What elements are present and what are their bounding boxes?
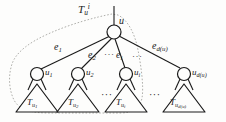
label-edge-edu: ed(u) [152,41,168,51]
label-enclosure-Tui: Tui [78,4,90,15]
child-to-subtree-line-du [175,79,180,90]
ellipsis-subtrees-left: ··· [101,90,113,100]
child-to-subtree-line-2b [82,79,87,90]
label-subtree-Tudu: Tud(u) [170,98,186,107]
edge-line-e1 [41,36,110,69]
child-to-subtree-line-i [117,79,122,90]
node-circle-ui [120,68,133,81]
label-node-u2: u2 [86,68,94,77]
label-node-u1: u1 [45,68,53,77]
ellipsis-subtrees-right: ··· [149,90,161,100]
ellipsis-edges-left: ··· [104,50,115,59]
label-node-udu: ud(u) [192,68,207,77]
label-node-ui: ui [134,68,140,77]
child-to-subtree-line-1b [41,79,46,90]
child-to-subtree-line-1 [28,79,33,90]
edge-line-edu [119,36,180,68]
ellipsis-edges-right: ··· [132,52,143,61]
label-edge-e1: e1 [54,42,62,52]
label-root-node-u: u [119,16,124,26]
node-circle-root-u [107,25,121,39]
node-circle-u1 [31,68,44,81]
child-to-subtree-line-dub [188,79,193,90]
label-edge-ei: ei [116,50,122,60]
label-subtree-Tu1: Tu1 [27,98,38,107]
tree-diagram-figure: Tui u e1 e2 ··· ei ··· ed(u) u1 u2 ui ud… [0,0,226,122]
label-edge-e2: e2 [88,50,96,60]
label-subtree-Tui: Tui [116,98,125,107]
label-subtree-Tu2: Tu2 [68,98,79,107]
child-to-subtree-line-2 [69,79,74,90]
node-circle-u2 [72,68,85,81]
node-circle-udu [178,68,191,81]
child-to-subtree-line-ib [130,79,135,90]
